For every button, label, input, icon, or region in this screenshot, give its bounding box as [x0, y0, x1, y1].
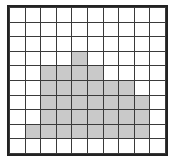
grid-cell-empty[interactable] — [134, 37, 150, 52]
grid-cell-empty[interactable] — [25, 139, 41, 154]
grid-cell-empty[interactable] — [25, 22, 41, 37]
grid-cell-shaded[interactable] — [119, 110, 135, 125]
grid-cell-empty[interactable] — [119, 66, 135, 81]
grid-cell-empty[interactable] — [150, 66, 166, 81]
grid-cell-empty[interactable] — [134, 139, 150, 154]
grid-cell-shaded[interactable] — [119, 95, 135, 110]
grid-cell-empty[interactable] — [119, 22, 135, 37]
grid-cell-empty[interactable] — [72, 22, 88, 37]
grid-cell-shaded[interactable] — [103, 80, 119, 95]
grid-cell-shaded[interactable] — [25, 124, 41, 139]
grid-cell-shaded[interactable] — [56, 124, 72, 139]
grid-cell-shaded[interactable] — [56, 110, 72, 125]
grid-cell-shaded[interactable] — [41, 95, 57, 110]
grid-cell-empty[interactable] — [41, 139, 57, 154]
grid-cell-empty[interactable] — [56, 139, 72, 154]
grid-cell-empty[interactable] — [72, 8, 88, 23]
grid-cell-shaded[interactable] — [87, 110, 103, 125]
grid-cell-empty[interactable] — [41, 22, 57, 37]
grid-cell-empty[interactable] — [134, 66, 150, 81]
grid-cell-shaded[interactable] — [56, 80, 72, 95]
grid-cell-empty[interactable] — [119, 51, 135, 66]
grid-cell-empty[interactable] — [72, 139, 88, 154]
grid-cell-shaded[interactable] — [103, 124, 119, 139]
grid-cell-shaded[interactable] — [87, 80, 103, 95]
grid-cell-empty[interactable] — [25, 8, 41, 23]
grid-cell-empty[interactable] — [103, 139, 119, 154]
grid-cell-empty[interactable] — [56, 51, 72, 66]
grid-cell-shaded[interactable] — [87, 124, 103, 139]
grid-cell-empty[interactable] — [150, 124, 166, 139]
grid-cell-empty[interactable] — [41, 37, 57, 52]
grid-cell-shaded[interactable] — [119, 124, 135, 139]
grid-cell-shaded[interactable] — [72, 80, 88, 95]
grid-cell-shaded[interactable] — [72, 66, 88, 81]
grid-cell-empty[interactable] — [87, 22, 103, 37]
grid-cell-empty[interactable] — [150, 110, 166, 125]
grid-cell-empty[interactable] — [56, 22, 72, 37]
grid-cell-empty[interactable] — [25, 37, 41, 52]
grid-cell-empty[interactable] — [103, 37, 119, 52]
grid-cell-empty[interactable] — [25, 110, 41, 125]
grid-cell-empty[interactable] — [41, 8, 57, 23]
grid-cell-empty[interactable] — [87, 37, 103, 52]
grid-cell-empty[interactable] — [25, 66, 41, 81]
grid-cell-empty[interactable] — [134, 80, 150, 95]
grid-cell-shaded[interactable] — [103, 95, 119, 110]
grid-cell-empty[interactable] — [25, 95, 41, 110]
grid-cell-shaded[interactable] — [41, 66, 57, 81]
grid-cell-empty[interactable] — [56, 37, 72, 52]
grid-cell-empty[interactable] — [119, 37, 135, 52]
grid-cell-shaded[interactable] — [134, 95, 150, 110]
grid-cell-shaded[interactable] — [72, 124, 88, 139]
grid-cell-empty[interactable] — [134, 22, 150, 37]
grid-cell-shaded[interactable] — [87, 66, 103, 81]
grid-cell-empty[interactable] — [10, 139, 26, 154]
grid-cell-empty[interactable] — [41, 51, 57, 66]
grid-cell-empty[interactable] — [10, 66, 26, 81]
grid-cell-shaded[interactable] — [103, 110, 119, 125]
grid-cell-empty[interactable] — [10, 80, 26, 95]
grid-cell-empty[interactable] — [119, 139, 135, 154]
grid-cell-empty[interactable] — [150, 22, 166, 37]
grid-cell-empty[interactable] — [150, 80, 166, 95]
grid-cell-empty[interactable] — [103, 51, 119, 66]
grid-cell-shaded[interactable] — [41, 124, 57, 139]
grid-cell-empty[interactable] — [134, 8, 150, 23]
grid-cell-empty[interactable] — [10, 124, 26, 139]
grid-cell-empty[interactable] — [10, 37, 26, 52]
grid-cell-empty[interactable] — [134, 51, 150, 66]
grid-cell-empty[interactable] — [72, 37, 88, 52]
grid-cell-shaded[interactable] — [72, 110, 88, 125]
grid-cell-shaded[interactable] — [134, 124, 150, 139]
grid-cell-empty[interactable] — [10, 8, 26, 23]
grid-cell-empty[interactable] — [87, 139, 103, 154]
grid-cell-empty[interactable] — [10, 95, 26, 110]
grid-cell-shaded[interactable] — [134, 110, 150, 125]
grid-cell-shaded[interactable] — [56, 95, 72, 110]
grid-cell-empty[interactable] — [103, 22, 119, 37]
grid-cell-empty[interactable] — [150, 8, 166, 23]
grid-cell-empty[interactable] — [87, 8, 103, 23]
grid-cell-shaded[interactable] — [56, 66, 72, 81]
grid-cell-empty[interactable] — [103, 66, 119, 81]
grid-cell-empty[interactable] — [150, 95, 166, 110]
grid-cell-empty[interactable] — [25, 51, 41, 66]
grid-cell-empty[interactable] — [10, 22, 26, 37]
grid-cell-empty[interactable] — [87, 51, 103, 66]
grid-cell-shaded[interactable] — [41, 80, 57, 95]
grid-cell-shaded[interactable] — [87, 95, 103, 110]
grid-cell-shaded[interactable] — [72, 95, 88, 110]
grid-cell-empty[interactable] — [56, 8, 72, 23]
grid-cell-empty[interactable] — [10, 51, 26, 66]
grid-cell-shaded[interactable] — [72, 51, 88, 66]
grid-cell-empty[interactable] — [25, 80, 41, 95]
grid-cell-empty[interactable] — [150, 139, 166, 154]
grid-cell-empty[interactable] — [10, 110, 26, 125]
grid-cell-empty[interactable] — [150, 37, 166, 52]
grid-cell-shaded[interactable] — [119, 80, 135, 95]
grid-cell-empty[interactable] — [150, 51, 166, 66]
grid-cell-empty[interactable] — [119, 8, 135, 23]
grid-cell-shaded[interactable] — [41, 110, 57, 125]
grid-cell-empty[interactable] — [103, 8, 119, 23]
